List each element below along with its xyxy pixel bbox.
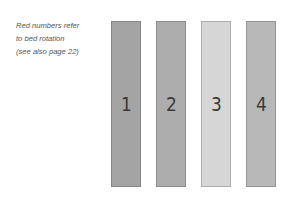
bed-number: 4 <box>256 92 266 116</box>
bed-4: 4 <box>246 21 276 187</box>
note-line: to bed rotation <box>16 32 79 45</box>
bed-3: 3 <box>201 21 231 187</box>
note-line: Red numbers refer <box>16 19 79 32</box>
rotation-note: Red numbers refer to bed rotation (see a… <box>16 19 79 58</box>
bed-2: 2 <box>156 21 186 187</box>
note-line: (see also page 22) <box>16 45 79 58</box>
bed-number: 1 <box>121 92 131 116</box>
bed-number: 3 <box>211 92 221 116</box>
bed-1: 1 <box>111 21 141 187</box>
bed-number: 2 <box>166 92 176 116</box>
